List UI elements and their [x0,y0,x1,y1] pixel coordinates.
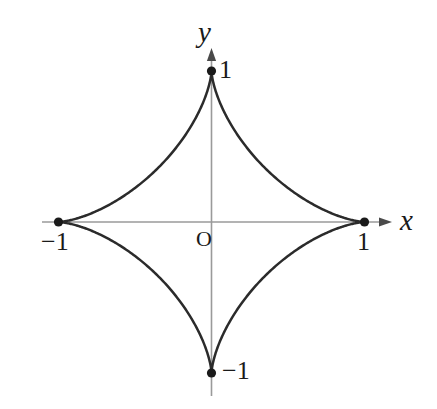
x-axis-label: x [400,206,413,235]
y-axis-label: y [198,18,211,47]
y-positive-tick-label: 1 [219,57,232,83]
vertex-dot-top [207,66,216,75]
origin-label: O [196,228,212,250]
vertex-dot-bottom [207,368,216,377]
y-axis-arrow-icon [207,48,216,61]
x-positive-tick-label: 1 [357,229,370,255]
vertex-dot-right [360,217,369,226]
vertex-dot-left [54,217,63,226]
astroid-figure: y x 1 −1 1 −1 O [0,0,437,409]
x-negative-tick-label: −1 [41,229,69,255]
x-axis-arrow-icon [379,217,392,226]
y-negative-tick-label: −1 [222,358,250,384]
